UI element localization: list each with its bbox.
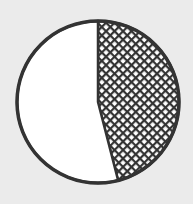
pie-chart: [0, 0, 193, 204]
